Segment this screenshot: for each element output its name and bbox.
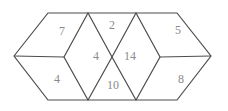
rhombus-hexagon-diagram: 7 2 5 4 14 4 10 8 — [0, 0, 228, 111]
region-label-left-rhombus: 4 — [93, 49, 99, 63]
right-horizontal-divider — [160, 56, 211, 57]
region-label-top-center: 2 — [109, 18, 115, 32]
diagram-canvas: 7 2 5 4 14 4 10 8 — [0, 0, 228, 111]
region-label-bottom-right: 8 — [178, 72, 184, 86]
left-horizontal-divider — [14, 56, 64, 57]
left-rhombus-outline — [64, 13, 112, 100]
region-label-right-rhombus: 14 — [124, 49, 136, 63]
region-label-top-left: 7 — [59, 24, 65, 38]
right-rhombus-outline — [112, 13, 160, 100]
region-label-bottom-center: 10 — [107, 78, 119, 92]
region-label-bottom-left: 4 — [54, 72, 60, 86]
region-label-top-right: 5 — [175, 23, 181, 37]
